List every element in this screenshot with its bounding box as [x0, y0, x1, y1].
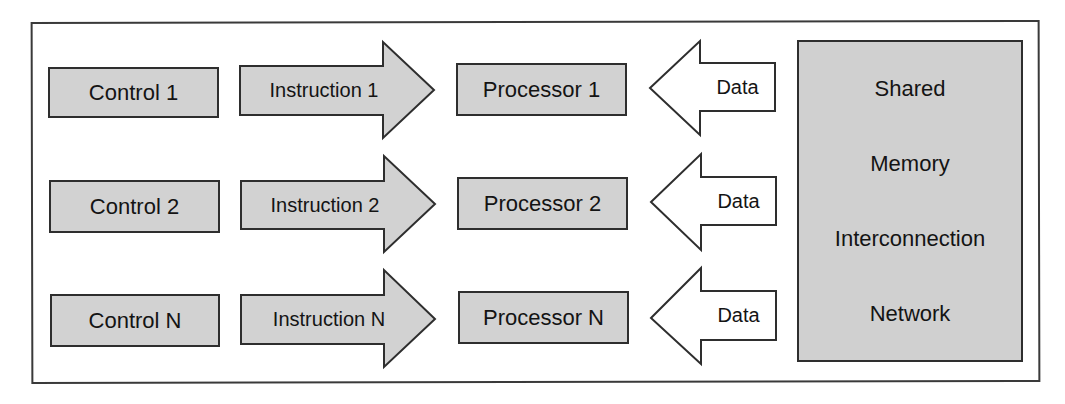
processor-label-1: Processor 1 [483, 77, 600, 103]
control-box-2: Control 2 [49, 180, 220, 233]
shared-memory-line-4: Network [799, 301, 1021, 327]
processor-label-2: Processor 2 [484, 191, 601, 217]
shared-memory-line-2: Memory [799, 151, 1021, 177]
instruction-label-2: Instruction 2 [245, 181, 405, 229]
diagram-canvas: Control 1 Instruction 1 Processor 1 Data… [0, 0, 1065, 404]
processor-box-1: Processor 1 [456, 63, 627, 116]
data-label-2: Data [701, 177, 776, 225]
control-label-1: Control 1 [89, 80, 178, 106]
control-box-n: Control N [50, 294, 220, 347]
shared-memory-network-box: Shared Memory Interconnection Network [797, 40, 1023, 362]
data-label-n: Data [701, 291, 776, 340]
control-label-n: Control N [89, 308, 182, 334]
instruction-label-n: Instruction N [249, 295, 409, 344]
control-label-2: Control 2 [90, 194, 179, 220]
instruction-label-1: Instruction 1 [244, 66, 404, 115]
data-label-1: Data [700, 63, 775, 111]
shared-memory-line-1: Shared [799, 76, 1021, 102]
processor-label-n: Processor N [483, 305, 604, 331]
processor-box-2: Processor 2 [457, 177, 628, 230]
shared-memory-line-3: Interconnection [799, 226, 1021, 252]
control-box-1: Control 1 [48, 67, 219, 118]
processor-box-n: Processor N [458, 291, 629, 344]
